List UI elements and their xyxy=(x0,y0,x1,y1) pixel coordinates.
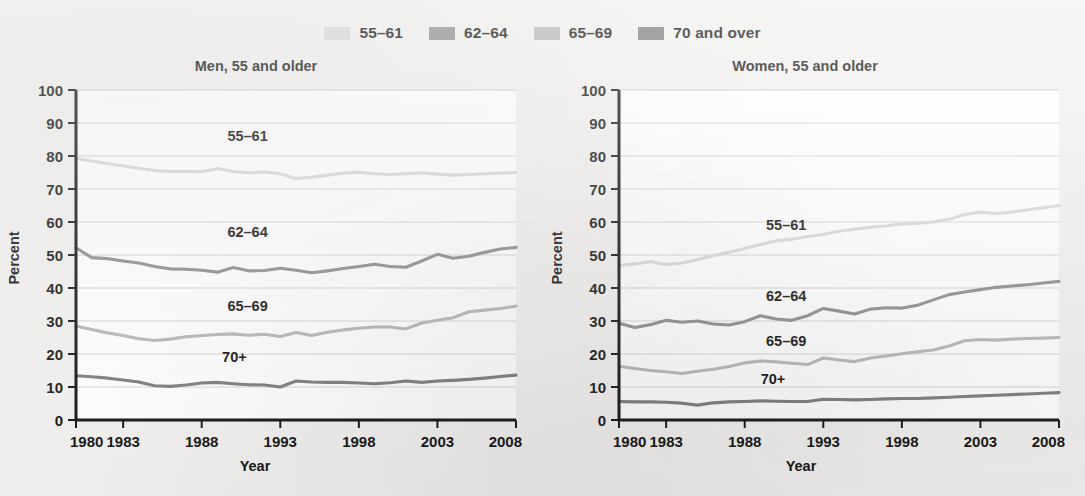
y-tick-label: 50 xyxy=(46,247,63,264)
y-tick-label: 70 xyxy=(46,181,63,198)
y-tick-label: 30 xyxy=(46,313,63,330)
legend-swatch-icon xyxy=(324,27,350,40)
series-annotation-label: 70+ xyxy=(761,371,786,387)
y-tick-label: 20 xyxy=(46,346,63,363)
y-tick-label: 90 xyxy=(589,115,606,132)
y-tick-label: 60 xyxy=(46,214,63,231)
legend-label: 62–64 xyxy=(464,24,508,42)
chart-panel-women: Women, 55 and olderPercentYear0102030405… xyxy=(543,58,1083,488)
chart-panels: Men, 55 and olderPercentYear010203040506… xyxy=(0,0,1085,496)
x-tick-label: 1983 xyxy=(649,433,682,450)
legend-entry: 55–61 xyxy=(324,24,403,42)
legend-label: 70 and over xyxy=(673,24,760,42)
x-tick-label: 1993 xyxy=(264,433,297,450)
x-tick-label: 1993 xyxy=(807,433,840,450)
y-tick-label: 0 xyxy=(598,412,606,429)
x-tick-label: 1998 xyxy=(885,433,918,450)
legend-entry: 62–64 xyxy=(429,24,508,42)
series-annotation-label: 55–61 xyxy=(766,217,806,233)
y-tick-label: 80 xyxy=(589,148,606,165)
x-tick-label: 1988 xyxy=(728,433,761,450)
x-axis-title: Year xyxy=(531,458,1071,474)
x-tick-label: 2008 xyxy=(489,433,522,450)
y-tick-label: 10 xyxy=(589,379,606,396)
y-tick-label: 60 xyxy=(589,214,606,231)
legend-label: 55–61 xyxy=(359,24,403,42)
x-tick-label: 1998 xyxy=(342,433,375,450)
x-tick-label: 2003 xyxy=(421,433,454,450)
y-tick-label: 40 xyxy=(46,280,63,297)
x-tick-label: 1980 xyxy=(70,433,103,450)
series-annotation-label: 65–69 xyxy=(766,333,806,349)
x-axis-title: Year xyxy=(0,458,525,474)
y-tick-label: 30 xyxy=(589,313,606,330)
y-tick-label: 50 xyxy=(589,247,606,264)
y-tick-label: 40 xyxy=(589,280,606,297)
legend-label: 65–69 xyxy=(569,24,613,42)
legend-swatch-icon xyxy=(429,27,455,40)
plot-area: 0102030405060708090100198019831988199319… xyxy=(0,58,540,458)
legend-entry: 65–69 xyxy=(534,24,613,42)
x-tick-label: 1983 xyxy=(106,433,139,450)
y-tick-label: 20 xyxy=(589,346,606,363)
series-annotation-label: 55–61 xyxy=(227,128,267,144)
series-annotation-label: 65–69 xyxy=(227,298,267,314)
y-tick-label: 0 xyxy=(55,412,63,429)
series-annotation-label: 62–64 xyxy=(227,224,267,240)
y-tick-label: 90 xyxy=(46,115,63,132)
y-tick-label: 100 xyxy=(581,82,606,99)
y-tick-label: 70 xyxy=(589,181,606,198)
x-tick-label: 1988 xyxy=(185,433,218,450)
legend-entry: 70 and over xyxy=(638,24,760,42)
series-annotation-label: 70+ xyxy=(222,349,247,365)
chart-panel-men: Men, 55 and olderPercentYear010203040506… xyxy=(0,58,540,488)
plot-area: 0102030405060708090100198019831988199319… xyxy=(543,58,1083,458)
series-annotation-label: 62–64 xyxy=(766,288,806,304)
legend-swatch-icon xyxy=(534,27,560,40)
x-tick-label: 2008 xyxy=(1032,433,1065,450)
y-tick-label: 80 xyxy=(46,148,63,165)
y-tick-label: 10 xyxy=(46,379,63,396)
x-tick-label: 2003 xyxy=(964,433,997,450)
chart-legend: 55–6162–6465–6970 and over xyxy=(0,24,1085,42)
x-tick-label: 1980 xyxy=(613,433,646,450)
y-tick-label: 100 xyxy=(38,82,63,99)
legend-swatch-icon xyxy=(638,27,664,40)
